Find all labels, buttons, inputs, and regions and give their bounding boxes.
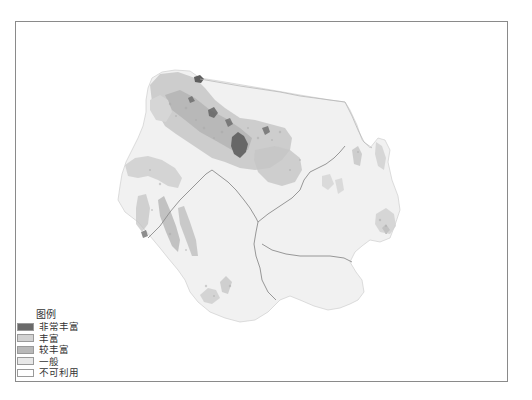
legend-swatch <box>17 346 34 354</box>
legend-swatch <box>17 323 34 331</box>
legend-title: 图例 <box>36 308 107 321</box>
legend-item-unusable: 不可利用 <box>17 367 107 379</box>
legend-label: 较丰富 <box>39 344 69 355</box>
legend-item-rich: 丰富 <box>17 333 107 345</box>
legend-label: 非常丰富 <box>39 321 79 332</box>
legend-swatch <box>17 357 34 365</box>
legend-item-very-rich: 非常丰富 <box>17 321 107 333</box>
legend-swatch <box>17 334 34 342</box>
legend-swatch <box>17 369 34 377</box>
legend-item-general: 一般 <box>17 356 107 368</box>
map-legend: 图例 非常丰富 丰富 较丰富 一般 不可利用 <box>17 308 107 379</box>
legend-label: 一般 <box>39 356 59 367</box>
legend-label: 不可利用 <box>39 367 79 378</box>
legend-label: 丰富 <box>39 333 59 344</box>
legend-item-fairly-rich: 较丰富 <box>17 344 107 356</box>
